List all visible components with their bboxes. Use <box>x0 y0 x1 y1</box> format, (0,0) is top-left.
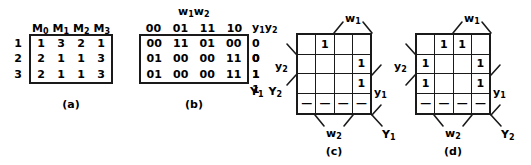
table-cell: 1 <box>71 51 91 66</box>
table-b-output-label: Y1Y2 <box>250 86 282 99</box>
table-cell: 3 <box>91 51 111 66</box>
kmap-c-label-w2: w2 <box>326 127 342 141</box>
table-cell: 00 <box>141 36 168 51</box>
table-cell: 1 <box>51 67 71 82</box>
table-cell: 00 <box>168 67 195 82</box>
kmap-c-label-y1: y1 <box>374 86 387 100</box>
table-row: 01 00 00 11 <box>141 51 247 66</box>
table-a-body: 1 3 2 1 2 1 1 3 2 1 1 3 <box>29 34 113 84</box>
table-b-state-column: 0 0 0 1 1 1 <box>252 36 275 82</box>
caption-c: (c) <box>296 145 372 158</box>
table-a-row-label: 3 <box>6 67 22 82</box>
table-row: 2 1 1 3 <box>31 51 111 66</box>
table-b-state-header: y1y2 <box>252 22 278 35</box>
table-a-row-labels: 1 2 3 <box>6 36 22 82</box>
kmap-d-label-y2: y2 <box>394 60 407 74</box>
table-b-input-label: w1w2 <box>178 6 210 19</box>
table-cell: 1 <box>31 36 51 51</box>
table-row: 1 3 2 1 <box>31 36 111 51</box>
table-cell: 01 <box>141 67 168 82</box>
table-a-row-label: 2 <box>6 51 22 66</box>
table-cell: 3 <box>91 67 111 82</box>
table-cell: 2 <box>71 36 91 51</box>
table-cell: 2 <box>31 67 51 82</box>
table-cell: 1 <box>91 36 111 51</box>
figure-part-a: M0 M1 M2 M3 1 2 3 1 3 2 1 2 1 1 3 2 1 <box>0 0 140 165</box>
table-cell: 11 <box>221 67 248 82</box>
table-row: 2 1 1 3 <box>31 67 111 82</box>
table-cell: 11 <box>168 36 195 51</box>
kmap-d-label-w1: w1 <box>464 12 480 26</box>
table-b-state-value: 0 1 <box>252 51 275 66</box>
kmap-c-output-label: Y1 <box>382 128 396 142</box>
caption-d: (d) <box>415 145 491 158</box>
figure-part-d: 1 1 1 1 1 1 — — — — <box>406 0 531 165</box>
table-cell: 00 <box>194 67 221 82</box>
table-row: 00 11 01 00 <box>141 36 247 51</box>
table-cell: 01 <box>141 51 168 66</box>
figure-part-b: w1w2 00 01 11 10 00 11 01 00 01 00 00 11… <box>130 0 275 165</box>
table-cell: 00 <box>194 51 221 66</box>
table-cell: 01 <box>194 36 221 51</box>
table-cell: 1 <box>51 51 71 66</box>
kmap-d-label-w2: w2 <box>445 127 461 141</box>
caption-b: (b) <box>139 98 249 111</box>
table-cell: 1 <box>71 67 91 82</box>
kmap-c-label-w1: w1 <box>345 12 361 26</box>
table-b-state-value: 1 1 <box>252 67 275 82</box>
table-cell: 00 <box>221 36 248 51</box>
table-cell: 2 <box>31 51 51 66</box>
table-row: 01 00 00 11 <box>141 67 247 82</box>
figure-part-c: 1 1 1 — — — — <box>287 0 407 165</box>
kmap-c-label-y2: y2 <box>275 60 288 74</box>
table-b-state-value: 0 0 <box>252 36 275 51</box>
table-cell: 11 <box>221 51 248 66</box>
table-cell: 00 <box>168 51 195 66</box>
kmap-d-label-y1: y1 <box>493 86 506 100</box>
kmap-d-output-label: Y2 <box>501 128 515 142</box>
table-cell: 3 <box>51 36 71 51</box>
caption-a: (a) <box>29 98 113 111</box>
table-a-row-label: 1 <box>6 36 22 51</box>
table-b-body: 00 11 01 00 01 00 00 11 01 00 00 11 <box>139 34 249 84</box>
